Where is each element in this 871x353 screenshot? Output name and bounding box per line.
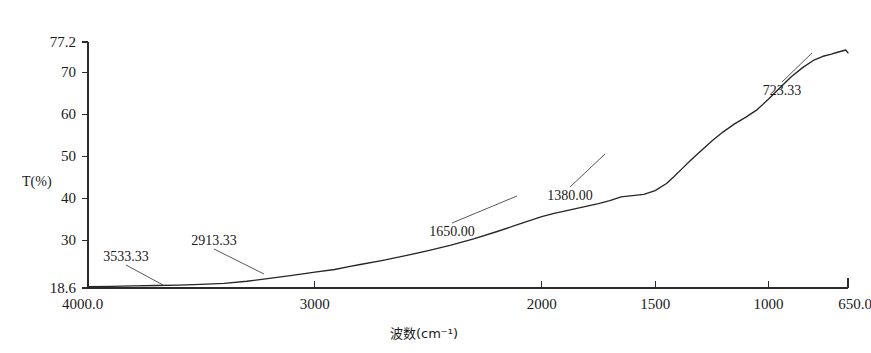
spectrum-curve bbox=[88, 50, 848, 287]
x-axis-tick-labels: 4000.03000200015001000650.0 bbox=[62, 296, 871, 312]
peak-label: 1650.00 bbox=[429, 224, 475, 239]
axes-group bbox=[88, 42, 848, 288]
peak-label: 3533.33 bbox=[103, 249, 149, 264]
peak-annotation: 723.33 bbox=[763, 53, 812, 98]
peak-annotation: 2913.33 bbox=[191, 233, 264, 274]
peak-label: 2913.33 bbox=[191, 233, 237, 248]
y-axis-ticks bbox=[82, 42, 88, 288]
y-tick-label: 77.2 bbox=[50, 34, 76, 50]
peak-label: 723.33 bbox=[763, 83, 802, 98]
x-tick-label: 2000 bbox=[527, 296, 557, 312]
annotation-leader-line bbox=[570, 154, 605, 187]
spectrum-plot-svg: 77.2706050403018.6 4000.0300020001500100… bbox=[0, 0, 871, 353]
x-tick-label: 3000 bbox=[300, 296, 330, 312]
peak-label: 1380.00 bbox=[547, 188, 593, 203]
x-axis-title: 波数(cm⁻¹) bbox=[390, 326, 458, 341]
x-tick-label: 650.0 bbox=[838, 296, 871, 312]
peak-annotation: 1650.00 bbox=[429, 196, 517, 239]
peak-annotation: 1380.00 bbox=[547, 154, 605, 203]
annotation-leader-line bbox=[126, 265, 163, 285]
y-tick-label: 30 bbox=[61, 232, 76, 248]
y-tick-label: 50 bbox=[61, 148, 76, 164]
y-tick-label: 40 bbox=[61, 190, 76, 206]
x-tick-label: 1500 bbox=[640, 296, 670, 312]
peak-annotation: 3533.33 bbox=[103, 249, 163, 285]
y-tick-label: 70 bbox=[61, 64, 76, 80]
ftir-spectrum-figure: 77.2706050403018.6 4000.0300020001500100… bbox=[0, 0, 871, 353]
y-axis-tick-labels: 77.2706050403018.6 bbox=[50, 34, 77, 296]
annotation-leader-line bbox=[452, 196, 517, 223]
y-tick-label: 60 bbox=[61, 106, 76, 122]
annotation-leader-line bbox=[782, 53, 812, 82]
y-axis-title: T(%) bbox=[22, 174, 52, 190]
annotation-leader-line bbox=[214, 249, 264, 274]
x-tick-label: 1000 bbox=[754, 296, 784, 312]
x-tick-label: 4000.0 bbox=[62, 296, 103, 312]
peak-annotations: 3533.332913.331650.001380.00723.33 bbox=[103, 53, 812, 285]
y-tick-label: 18.6 bbox=[50, 280, 77, 296]
